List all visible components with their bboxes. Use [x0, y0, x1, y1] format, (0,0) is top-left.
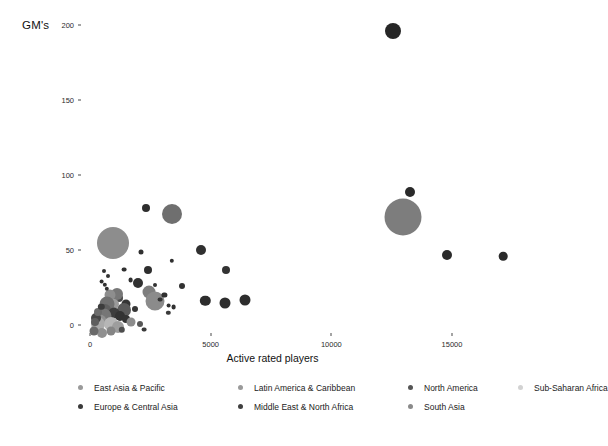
legend-item[interactable]: Europe & Central Asia — [78, 402, 178, 412]
data-point — [240, 294, 251, 305]
y-tick-mark — [78, 100, 81, 101]
legend-item[interactable]: Latin America & Caribbean — [238, 383, 355, 393]
legend-label: Middle East & North Africa — [254, 402, 353, 412]
legend-row: Europe & Central AsiaMiddle East & North… — [78, 397, 528, 416]
data-point — [106, 274, 110, 278]
data-point — [137, 321, 143, 327]
data-point — [158, 297, 163, 302]
data-point — [171, 305, 176, 310]
data-point — [122, 267, 127, 272]
data-point — [219, 297, 230, 308]
y-tick-mark — [78, 250, 81, 251]
legend-label: South Asia — [424, 402, 465, 412]
y-tick-mark — [78, 25, 81, 26]
data-point — [144, 266, 152, 274]
x-tick-mark — [331, 333, 332, 336]
y-tick-label: 200 — [40, 21, 74, 30]
legend-label: East Asia & Pacific — [94, 383, 165, 393]
legend-item[interactable]: Sub-Saharan Africa — [518, 383, 608, 393]
data-point — [222, 266, 230, 274]
x-tick-label: 15000 — [422, 340, 482, 349]
legend: East Asia & PacificLatin America & Carib… — [78, 378, 528, 416]
data-point — [385, 23, 401, 39]
x-tick-mark — [210, 333, 211, 336]
data-point — [142, 327, 147, 332]
data-point — [91, 318, 99, 326]
data-point — [102, 269, 106, 273]
legend-label: Europe & Central Asia — [94, 402, 178, 412]
data-point — [166, 311, 170, 315]
data-point — [119, 326, 125, 332]
data-point — [200, 296, 210, 306]
data-point — [132, 306, 138, 312]
x-tick-label: 5000 — [181, 340, 241, 349]
x-tick-label: 0 — [60, 340, 120, 349]
data-point — [142, 204, 150, 212]
legend-item[interactable]: East Asia & Pacific — [78, 383, 165, 393]
data-point — [138, 249, 143, 254]
data-point — [97, 227, 129, 259]
legend-color-dot — [78, 385, 83, 390]
y-tick-mark — [78, 175, 81, 176]
data-point — [405, 187, 415, 197]
data-point — [133, 278, 143, 288]
legend-item[interactable]: Middle East & North Africa — [238, 402, 353, 412]
data-point — [107, 327, 116, 336]
legend-color-dot — [238, 404, 243, 409]
y-tick-label: 100 — [40, 171, 74, 180]
legend-color-dot — [408, 404, 413, 409]
data-point — [162, 292, 167, 297]
data-point — [442, 250, 452, 260]
legend-color-dot — [408, 385, 413, 390]
legend-color-dot — [78, 404, 83, 409]
data-point — [196, 245, 206, 255]
legend-color-dot — [238, 385, 243, 390]
legend-label: Sub-Saharan Africa — [534, 383, 608, 393]
y-tick-label: 50 — [40, 246, 74, 255]
legend-item[interactable]: South Asia — [408, 402, 465, 412]
legend-row: East Asia & PacificLatin America & Carib… — [78, 378, 528, 397]
legend-item[interactable]: North America — [408, 383, 478, 393]
y-tick-label: 0 — [40, 321, 74, 330]
data-point — [97, 328, 107, 338]
data-point — [153, 283, 157, 287]
legend-color-dot — [518, 385, 523, 390]
y-tick-label: 150 — [40, 96, 74, 105]
legend-label: North America — [424, 383, 478, 393]
x-tick-mark — [452, 333, 453, 336]
data-point — [179, 283, 185, 289]
data-point — [162, 204, 182, 224]
data-point — [127, 318, 136, 327]
x-tick-label: 10000 — [301, 340, 361, 349]
y-tick-mark — [78, 325, 81, 326]
x-axis-title: Active rated players — [0, 352, 545, 364]
data-point — [128, 278, 133, 283]
legend-label: Latin America & Caribbean — [254, 383, 355, 393]
data-point — [169, 258, 173, 262]
data-point — [499, 252, 508, 261]
data-point — [90, 327, 99, 336]
data-point — [384, 199, 421, 236]
